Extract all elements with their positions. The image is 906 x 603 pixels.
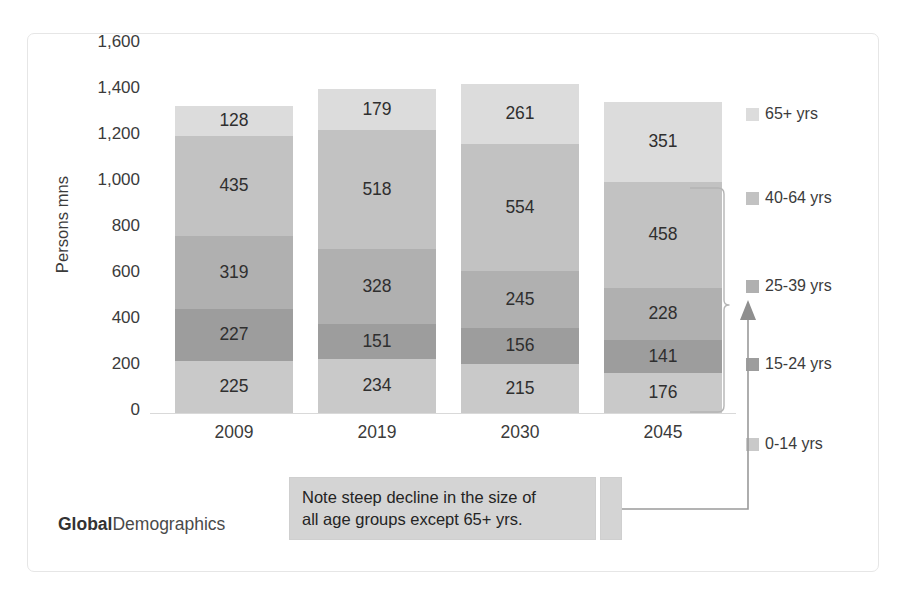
plot-area: 1284353192272251795183281512342615542451… (150, 45, 734, 413)
bar-segment-value-label: 435 (219, 177, 248, 195)
bar-segment[interactable]: 261 (461, 84, 579, 144)
bar-segment[interactable]: 215 (461, 364, 579, 413)
stacked-bar[interactable]: 261554245156215 (461, 84, 579, 413)
bar-segment[interactable]: 319 (175, 236, 293, 309)
bar-segment[interactable]: 227 (175, 309, 293, 361)
y-axis-tick-label: 1,400 (48, 78, 140, 98)
bar-segment[interactable]: 228 (604, 288, 722, 340)
bar-segment[interactable]: 156 (461, 328, 579, 364)
stacked-bar[interactable]: 351458228141176 (604, 102, 722, 413)
bar-segment[interactable]: 245 (461, 271, 579, 327)
legend-item-label: 25-39 yrs (765, 276, 832, 296)
bar-segment-value-label: 351 (648, 133, 677, 151)
x-axis-line (150, 413, 736, 414)
bar-segment-value-label: 234 (362, 377, 391, 395)
legend-color-swatch (746, 192, 759, 205)
brand-bold: Global (58, 514, 112, 534)
bar-segment[interactable]: 176 (604, 373, 722, 413)
bar-group[interactable]: 128435319227225 (175, 106, 293, 413)
bar-segment-value-label: 261 (505, 105, 534, 123)
bar-segment[interactable]: 151 (318, 324, 436, 359)
bar-segment[interactable]: 128 (175, 106, 293, 135)
bar-segment-value-label: 228 (648, 305, 677, 323)
annotation-note-box-tail (600, 477, 622, 540)
bar-segment-value-label: 554 (505, 199, 534, 217)
legend-item[interactable]: 0-14 yrs (746, 434, 864, 454)
legend-item-label: 65+ yrs (765, 104, 818, 124)
chart-container: Persons mns 1,6001,4001,2001,00080060040… (0, 0, 906, 603)
legend-color-swatch (746, 358, 759, 371)
legend-item-label: 0-14 yrs (765, 434, 823, 454)
brand-wordmark: GlobalDemographics (58, 514, 225, 535)
bar-segment-value-label: 458 (648, 226, 677, 244)
bar-segment-value-label: 176 (648, 384, 677, 402)
bar-segment-value-label: 227 (219, 326, 248, 344)
bar-segment[interactable]: 328 (318, 249, 436, 324)
bar-segment[interactable]: 518 (318, 130, 436, 249)
x-axis-tick-label: 2030 (450, 422, 590, 443)
bar-segment[interactable]: 179 (318, 89, 436, 130)
bar-segment-value-label: 225 (219, 378, 248, 396)
bar-segment[interactable]: 141 (604, 340, 722, 372)
annotation-line-2: all age groups except 65+ yrs. (302, 510, 523, 528)
bar-segment-value-label: 141 (648, 348, 677, 366)
y-axis-tick-label: 1,200 (48, 124, 140, 144)
bar-segment[interactable]: 458 (604, 182, 722, 287)
y-axis-tick-label: 400 (48, 308, 140, 328)
bar-segment[interactable]: 435 (175, 136, 293, 236)
bar-segment-value-label: 128 (219, 112, 248, 130)
legend-color-swatch (746, 438, 759, 451)
bar-segment-value-label: 156 (505, 337, 534, 355)
stacked-bar[interactable]: 179518328151234 (318, 89, 436, 413)
legend-item-label: 15-24 yrs (765, 354, 832, 374)
bar-segment-value-label: 518 (362, 181, 391, 199)
bar-segment[interactable]: 351 (604, 102, 722, 183)
bar-segment-value-label: 328 (362, 278, 391, 296)
legend-item[interactable]: 15-24 yrs (746, 354, 864, 374)
legend-color-swatch (746, 108, 759, 121)
legend-color-swatch (746, 280, 759, 293)
bar-group[interactable]: 261554245156215 (461, 84, 579, 413)
bar-segment-value-label: 215 (505, 380, 534, 398)
y-axis-tick-label: 0 (48, 400, 140, 420)
y-axis-ticks: 1,6001,4001,2001,0008006004002000 (48, 42, 140, 412)
y-axis-tick-label: 800 (48, 216, 140, 236)
bar-segment-value-label: 179 (362, 101, 391, 119)
y-axis-tick-label: 1,000 (48, 170, 140, 190)
y-axis-tick-label: 200 (48, 354, 140, 374)
legend-item[interactable]: 40-64 yrs (746, 188, 864, 208)
legend-item[interactable]: 65+ yrs (746, 104, 864, 124)
x-axis-tick-label: 2019 (307, 422, 447, 443)
bar-segment[interactable]: 234 (318, 359, 436, 413)
bar-segment[interactable]: 554 (461, 144, 579, 271)
legend-item-label: 40-64 yrs (765, 188, 832, 208)
annotation-note-text: Note steep decline in the size of all ag… (302, 487, 536, 531)
bar-segment-value-label: 151 (362, 333, 391, 351)
x-axis-tick-label: 2045 (593, 422, 733, 443)
y-axis-tick-label: 600 (48, 262, 140, 282)
annotation-line-1: Note steep decline in the size of (302, 488, 536, 506)
bar-group[interactable]: 179518328151234 (318, 89, 436, 413)
bar-group[interactable]: 351458228141176 (604, 102, 722, 413)
bar-segment-value-label: 319 (219, 264, 248, 282)
stacked-bar[interactable]: 128435319227225 (175, 106, 293, 413)
annotation-note-box: Note steep decline in the size of all ag… (289, 477, 596, 540)
legend-item[interactable]: 25-39 yrs (746, 276, 864, 296)
bar-segment-value-label: 245 (505, 291, 534, 309)
y-axis-tick-label: 1,600 (48, 32, 140, 52)
x-axis-tick-label: 2009 (164, 422, 304, 443)
brand-light: Demographics (112, 514, 225, 534)
bar-segment[interactable]: 225 (175, 361, 293, 413)
